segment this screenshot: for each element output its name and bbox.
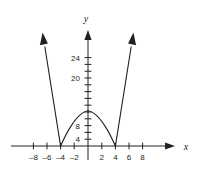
right-branch-arrow-icon xyxy=(128,33,136,46)
y-tick-label: 8 xyxy=(76,122,81,131)
y-axis-label: y xyxy=(83,13,89,24)
y-tick-label: 20 xyxy=(71,74,80,83)
x-tick-label: –4 xyxy=(56,153,65,162)
x-axis-arrow-icon xyxy=(165,142,175,149)
graph-figure: –8 –6 –4 –2 2 4 6 8 4 8 20 24 y x xyxy=(0,0,197,173)
coordinate-plane: –8 –6 –4 –2 2 4 6 8 4 8 20 24 y x xyxy=(0,0,197,173)
y-tick-label: 4 xyxy=(76,135,81,144)
x-axis-label: x xyxy=(183,141,189,152)
x-tick-label: –2 xyxy=(70,153,79,162)
x-tick-label: 4 xyxy=(113,153,118,162)
x-tick-label: –8 xyxy=(29,153,38,162)
x-tick-label: 6 xyxy=(127,153,132,162)
x-tick-label: 2 xyxy=(100,153,105,162)
y-tick-label: 24 xyxy=(71,54,80,63)
y-axis-arrow-icon xyxy=(84,30,91,40)
left-branch-arrow-icon xyxy=(40,33,48,46)
x-tick-label: 8 xyxy=(140,153,145,162)
x-tick-label: –6 xyxy=(43,153,52,162)
